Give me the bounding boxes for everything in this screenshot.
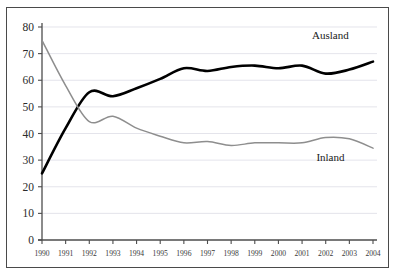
x-tick-label: 1997 (200, 249, 215, 258)
x-tick-label: 2001 (294, 249, 309, 258)
gridlines-group (42, 27, 377, 213)
x-tick-label: 1999 (247, 249, 262, 258)
x-tick-label: 2004 (365, 249, 380, 258)
x-tick-label: 1991 (58, 249, 73, 258)
series-label-inland: Inland (316, 151, 345, 163)
y-tick-label: 70 (23, 48, 35, 60)
y-tick-label: 30 (23, 154, 35, 166)
x-tick-label: 1993 (105, 249, 120, 258)
x-tick-label: 1992 (82, 249, 97, 258)
y-tick-label: 20 (23, 181, 35, 193)
line-chart: 01020304050607080 1990199119921993199419… (0, 0, 398, 277)
series-annotations-group: AuslandInland (312, 29, 349, 163)
x-tick-label: 1996 (176, 249, 191, 258)
x-tick-label: 1995 (153, 249, 168, 258)
x-tick-label: 1990 (34, 249, 49, 258)
x-axis-group (38, 240, 377, 244)
y-tick-label: 10 (23, 207, 35, 219)
y-tick-label: 60 (23, 74, 35, 86)
y-tick-labels-group: 01020304050607080 (23, 21, 35, 246)
x-tick-labels-group: 1990199119921993199419951996199719981999… (34, 249, 380, 258)
y-tick-label: 80 (23, 21, 35, 33)
x-tick-label: 1994 (129, 249, 144, 258)
y-tick-label: 40 (23, 128, 35, 140)
x-tick-label: 2002 (318, 249, 333, 258)
y-axis-group (38, 23, 42, 240)
chart-container: 01020304050607080 1990199119921993199419… (0, 0, 398, 277)
y-tick-label: 0 (28, 234, 34, 246)
x-tick-label: 2003 (342, 249, 357, 258)
y-tick-label: 50 (23, 101, 35, 113)
series-line-inland (42, 40, 373, 148)
x-tick-label: 2000 (271, 249, 286, 258)
series-label-ausland: Ausland (312, 29, 349, 41)
x-tick-label: 1998 (224, 249, 239, 258)
